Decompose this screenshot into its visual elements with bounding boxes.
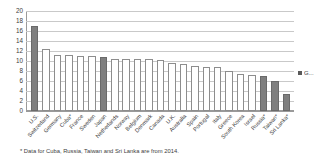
bar-slot (258, 11, 269, 111)
y-axis-tick-labels: 20181614121086420 (0, 11, 23, 111)
bar (283, 94, 291, 112)
y-axis-tick-label: 0 (19, 108, 23, 114)
bar-slot (223, 11, 234, 111)
x-label-slot: Sri Lanka* (281, 112, 292, 148)
y-axis-tick-label: 16 (16, 28, 23, 34)
bar (180, 64, 188, 112)
bar-slot (235, 11, 246, 111)
bar-slot (109, 11, 120, 111)
bar-slot (63, 11, 74, 111)
bar-slot (29, 11, 40, 111)
bar-slot (166, 11, 177, 111)
bar (237, 74, 245, 111)
x-label-slot: Australia (178, 112, 189, 148)
bar-slot (52, 11, 63, 111)
bar-slot (178, 11, 189, 111)
x-label-slot: South Korea (235, 112, 246, 148)
chart-legend: G... (298, 70, 332, 76)
bar (100, 57, 108, 112)
bar (65, 55, 73, 111)
bar (157, 60, 165, 111)
bar-slot (155, 11, 166, 111)
x-label-slot: Russia* (258, 112, 269, 148)
bar (271, 81, 279, 112)
bar-slot (212, 11, 223, 111)
bar-slot (75, 11, 86, 111)
x-axis-category-labels: U.S.SwitzerlandGermanyCuba*FranceSwedenJ… (26, 112, 294, 148)
bar-series (26, 11, 294, 111)
x-label-slot: Netherlands (109, 112, 120, 148)
legend-swatch-icon (298, 71, 302, 75)
bar (31, 26, 39, 112)
y-axis-tick-label: 6 (19, 78, 23, 84)
bar (168, 63, 176, 112)
bar (203, 67, 211, 111)
plot-area (26, 11, 294, 111)
x-label-slot: Italy (212, 112, 223, 148)
x-label-slot: Cuba* (63, 112, 74, 148)
bar (214, 67, 222, 111)
bar (111, 59, 119, 111)
bar (122, 59, 130, 111)
bar (260, 76, 268, 111)
bar (225, 71, 233, 112)
y-axis-tick-label: 10 (16, 58, 23, 64)
bar (191, 66, 199, 111)
x-label-slot: Canada (155, 112, 166, 148)
bar-slot (143, 11, 154, 111)
bar-chart: 20181614121086420 U.S.SwitzerlandGermany… (0, 0, 332, 161)
bar-slot (201, 11, 212, 111)
y-axis-tick-label: 4 (19, 88, 23, 94)
bar (248, 75, 256, 111)
y-axis-tick-label: 14 (16, 38, 23, 44)
x-label-slot: Portugal (201, 112, 212, 148)
bar-slot (246, 11, 257, 111)
y-axis-tick-label: 20 (16, 8, 23, 14)
bar-slot (281, 11, 292, 111)
bar (54, 55, 62, 112)
bar (77, 56, 85, 112)
bar (134, 59, 142, 111)
bar-slot (40, 11, 51, 111)
bar (88, 56, 96, 112)
bar-slot (132, 11, 143, 111)
bar-slot (121, 11, 132, 111)
chart-footnote: * Data for Cuba, Russia, Taiwan and Sri … (20, 147, 179, 155)
bar-slot (86, 11, 97, 111)
x-label-slot: Germany (52, 112, 63, 148)
bar-slot (189, 11, 200, 111)
y-axis-tick-label: 18 (16, 18, 23, 24)
x-label-slot: Sweden (86, 112, 97, 148)
bar (42, 49, 50, 111)
bar (145, 59, 153, 111)
bar-slot (269, 11, 280, 111)
legend-label: G... (304, 70, 314, 76)
bar-slot (98, 11, 109, 111)
y-axis-tick-label: 12 (16, 48, 23, 54)
y-axis-tick-label: 2 (19, 98, 23, 104)
y-axis-tick-label: 8 (19, 68, 23, 74)
